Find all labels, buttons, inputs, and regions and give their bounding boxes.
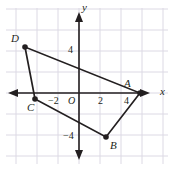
vertex-label-c: C	[27, 102, 34, 113]
vertex-label-a: A	[124, 78, 131, 89]
plot-area	[0, 0, 174, 172]
vertex-b-dot	[103, 134, 109, 140]
origin-label: O	[68, 96, 75, 106]
x-tick-label-4: 4	[124, 96, 129, 106]
quadrilateral-abcd	[25, 47, 140, 137]
x-tick-label-neg2: −2	[48, 96, 59, 106]
y-tick-label-4: 4	[68, 45, 73, 55]
coordinate-plane-figure: x y O −2 2 4 4 −4 A B C D	[0, 0, 174, 172]
vertex-markers	[22, 44, 143, 140]
y-tick-label-neg4: −4	[63, 131, 74, 141]
y-axis-label: y	[82, 2, 87, 13]
vertex-label-b: B	[110, 140, 117, 151]
vertex-d-dot	[22, 44, 28, 50]
y-axis	[75, 12, 83, 160]
grid-lines	[6, 8, 168, 164]
x-axis-label: x	[160, 86, 165, 97]
vertex-label-d: D	[11, 33, 19, 44]
vertex-a-dot	[137, 90, 143, 96]
x-tick-label-2: 2	[98, 96, 103, 106]
